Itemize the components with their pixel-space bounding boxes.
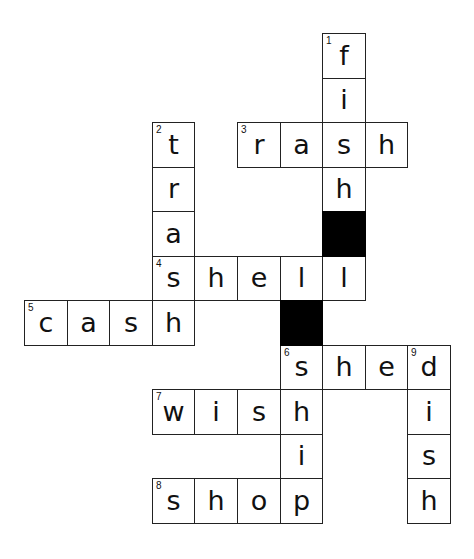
cell-letter: h	[195, 479, 237, 523]
cell-letter: s	[408, 435, 450, 478]
cell-letter: r	[153, 168, 194, 211]
cell-letter: a	[153, 212, 194, 256]
crossword-cell[interactable]: h	[365, 122, 408, 168]
crossword-cell[interactable]: 2t	[152, 122, 195, 168]
crossword-cell[interactable]: h	[280, 389, 323, 435]
cell-letter: i	[281, 435, 322, 478]
cell-letter: r	[238, 123, 280, 167]
cell-letter: h	[153, 301, 194, 345]
cell-letter: h	[323, 346, 365, 389]
cell-letter: o	[238, 479, 280, 523]
cell-letter: s	[110, 301, 152, 345]
crossword-cell[interactable]: 6s	[280, 345, 323, 390]
crossword-cell[interactable]: e	[365, 345, 408, 390]
cell-letter: i	[323, 79, 365, 122]
cell-letter: c	[25, 301, 67, 345]
cell-letter: t	[153, 123, 194, 167]
crossword-cell[interactable]: p	[280, 478, 323, 524]
cell-letter: l	[323, 257, 365, 300]
cell-letter: p	[281, 479, 322, 523]
crossword-cell[interactable]: s	[407, 434, 451, 479]
crossword-cell[interactable]: i	[407, 389, 451, 435]
cell-letter: a	[281, 123, 322, 167]
crossword-cell[interactable]: l	[322, 256, 366, 301]
cell-letter: l	[281, 257, 322, 300]
crossword-cell[interactable]: 4s	[152, 256, 195, 301]
crossword-cell[interactable]: 8s	[152, 478, 195, 524]
cell-letter: h	[195, 257, 237, 300]
crossword-cell[interactable]: 1f	[322, 33, 366, 79]
crossword-cell[interactable]: o	[237, 478, 281, 524]
black-cell	[322, 211, 366, 257]
crossword-cell[interactable]: h	[407, 478, 451, 524]
crossword-cell[interactable]: h	[152, 300, 195, 346]
cell-letter: a	[68, 301, 109, 345]
crossword-cell[interactable]: a	[280, 122, 323, 168]
crossword-cell[interactable]: 5c	[24, 300, 68, 346]
cell-letter: i	[195, 390, 237, 434]
crossword-cell[interactable]: a	[67, 300, 110, 346]
crossword-cell[interactable]: i	[322, 78, 366, 123]
crossword-cell[interactable]: a	[152, 211, 195, 257]
cell-letter: f	[323, 34, 365, 78]
crossword-cell[interactable]: e	[237, 256, 281, 301]
crossword-cell[interactable]: h	[194, 256, 238, 301]
cell-letter: d	[408, 346, 450, 389]
crossword-cell[interactable]: h	[194, 478, 238, 524]
crossword-cell[interactable]: 9d	[407, 345, 451, 390]
crossword-cell[interactable]: i	[280, 434, 323, 479]
crossword-cell[interactable]: i	[194, 389, 238, 435]
crossword-cell[interactable]: 3r	[237, 122, 281, 168]
crossword-grid: 1fi2t3rashrha4shell5cash6she9d7wishiis8s…	[0, 0, 474, 559]
cell-letter: e	[366, 346, 407, 389]
cell-letter: h	[323, 168, 365, 211]
cell-letter: w	[153, 390, 194, 434]
cell-letter: s	[153, 257, 194, 300]
cell-letter: s	[153, 479, 194, 523]
cell-letter: e	[238, 257, 280, 300]
crossword-cell[interactable]: h	[322, 167, 366, 212]
crossword-cell[interactable]: l	[280, 256, 323, 301]
cell-letter: h	[366, 123, 407, 167]
black-cell	[280, 300, 323, 346]
crossword-cell[interactable]: s	[322, 122, 366, 168]
crossword-cell[interactable]: s	[237, 389, 281, 435]
cell-letter: h	[281, 390, 322, 434]
cell-letter: i	[408, 390, 450, 434]
crossword-cell[interactable]: r	[152, 167, 195, 212]
cell-letter: s	[323, 123, 365, 167]
cell-letter: s	[238, 390, 280, 434]
crossword-cell[interactable]: h	[322, 345, 366, 390]
crossword-cell[interactable]: s	[109, 300, 153, 346]
crossword-cell[interactable]: 7w	[152, 389, 195, 435]
cell-letter: s	[281, 346, 322, 389]
cell-letter: h	[408, 479, 450, 523]
